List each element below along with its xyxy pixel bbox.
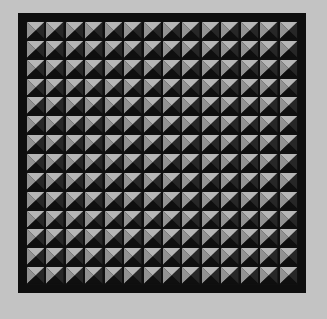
pyramid-tile bbox=[84, 96, 103, 115]
pyramid-tile bbox=[143, 172, 162, 191]
pyramid-tile bbox=[104, 21, 123, 40]
pyramid-tile bbox=[104, 210, 123, 229]
pyramid-stud-icon bbox=[105, 97, 122, 114]
pyramid-tile bbox=[259, 191, 278, 210]
pyramid-stud-icon bbox=[46, 173, 63, 190]
pyramid-tile bbox=[104, 96, 123, 115]
pyramid-stud-icon bbox=[27, 79, 44, 96]
pyramid-tile bbox=[220, 266, 239, 285]
pyramid-stud-icon bbox=[105, 41, 122, 58]
pyramid-tile bbox=[240, 247, 259, 266]
pyramid-tile bbox=[240, 266, 259, 285]
pyramid-stud-icon bbox=[182, 248, 199, 265]
pyramid-stud-icon bbox=[105, 116, 122, 133]
pyramid-stud-icon bbox=[182, 154, 199, 171]
pyramid-stud-icon bbox=[163, 173, 180, 190]
pyramid-tile bbox=[65, 228, 84, 247]
pyramid-tile bbox=[143, 247, 162, 266]
pyramid-stud-icon bbox=[163, 97, 180, 114]
pyramid-stud-icon bbox=[124, 116, 141, 133]
pyramid-tile bbox=[26, 172, 45, 191]
pyramid-stud-icon bbox=[182, 192, 199, 209]
pyramid-tile bbox=[259, 59, 278, 78]
pyramid-tile bbox=[279, 40, 298, 59]
pyramid-stud-icon bbox=[46, 192, 63, 209]
pyramid-stud-icon bbox=[144, 248, 161, 265]
pyramid-stud-icon bbox=[144, 97, 161, 114]
pyramid-tile bbox=[65, 59, 84, 78]
pyramid-stud-icon bbox=[241, 248, 258, 265]
pyramid-stud-icon bbox=[202, 79, 219, 96]
pyramid-tile bbox=[65, 115, 84, 134]
pyramid-tile bbox=[240, 153, 259, 172]
pyramid-tile bbox=[162, 59, 181, 78]
pyramid-tile bbox=[84, 266, 103, 285]
pyramid-stud-icon bbox=[241, 135, 258, 152]
pyramid-stud-icon bbox=[221, 154, 238, 171]
pyramid-tile bbox=[45, 191, 64, 210]
pyramid-tile bbox=[65, 266, 84, 285]
pyramid-stud-icon bbox=[221, 211, 238, 228]
pyramid-stud-icon bbox=[144, 60, 161, 77]
pyramid-tile bbox=[84, 153, 103, 172]
pyramid-tile bbox=[279, 21, 298, 40]
pyramid-stud-icon bbox=[182, 79, 199, 96]
pyramid-tile bbox=[26, 210, 45, 229]
pyramid-stud-icon bbox=[260, 22, 277, 39]
pyramid-tile bbox=[123, 266, 142, 285]
pyramid-stud-icon bbox=[66, 192, 83, 209]
pyramid-stud-icon bbox=[202, 248, 219, 265]
pyramid-tile bbox=[104, 247, 123, 266]
pyramid-stud-icon bbox=[202, 192, 219, 209]
pyramid-stud-icon bbox=[27, 211, 44, 228]
pyramid-stud-icon bbox=[260, 211, 277, 228]
pyramid-tile bbox=[201, 59, 220, 78]
pyramid-stud-icon bbox=[46, 135, 63, 152]
pyramid-stud-icon bbox=[202, 97, 219, 114]
pyramid-stud-icon bbox=[27, 60, 44, 77]
pyramid-tile bbox=[279, 266, 298, 285]
pyramid-tile bbox=[65, 96, 84, 115]
pyramid-tile bbox=[240, 134, 259, 153]
pyramid-tile bbox=[220, 59, 239, 78]
pyramid-stud-icon bbox=[85, 211, 102, 228]
pyramid-stud-icon bbox=[163, 41, 180, 58]
pyramid-tile bbox=[65, 134, 84, 153]
pyramid-tile bbox=[162, 115, 181, 134]
pyramid-tile bbox=[201, 40, 220, 59]
pyramid-stud-icon bbox=[182, 41, 199, 58]
pyramid-stud-icon bbox=[124, 192, 141, 209]
pyramid-stud-icon bbox=[66, 97, 83, 114]
pyramid-tile bbox=[181, 59, 200, 78]
pyramid-tile bbox=[123, 210, 142, 229]
pyramid-stud-icon bbox=[280, 135, 297, 152]
pyramid-tile bbox=[259, 153, 278, 172]
pyramid-stud-icon bbox=[66, 154, 83, 171]
pyramid-tile bbox=[220, 21, 239, 40]
pyramid-tile bbox=[143, 210, 162, 229]
pyramid-stud-icon bbox=[85, 60, 102, 77]
pyramid-stud-icon bbox=[221, 79, 238, 96]
pyramid-tile bbox=[279, 134, 298, 153]
pyramid-tile bbox=[143, 153, 162, 172]
pyramid-tile bbox=[123, 134, 142, 153]
pyramid-tile bbox=[123, 78, 142, 97]
pyramid-stud-icon bbox=[85, 173, 102, 190]
pyramid-stud-icon bbox=[182, 135, 199, 152]
pyramid-tile bbox=[279, 210, 298, 229]
pyramid-stud-icon bbox=[221, 229, 238, 246]
pyramid-tile bbox=[201, 134, 220, 153]
pyramid-stud-icon bbox=[144, 192, 161, 209]
pyramid-tile bbox=[123, 172, 142, 191]
pyramid-tile bbox=[104, 153, 123, 172]
pyramid-tile bbox=[240, 172, 259, 191]
pyramid-tile bbox=[162, 21, 181, 40]
pyramid-tile bbox=[181, 21, 200, 40]
pyramid-tile bbox=[104, 228, 123, 247]
pyramid-tile bbox=[240, 191, 259, 210]
pyramid-stud-icon bbox=[105, 211, 122, 228]
pyramid-tile bbox=[84, 228, 103, 247]
pyramid-stud-icon bbox=[46, 60, 63, 77]
pyramid-stud-icon bbox=[144, 135, 161, 152]
pyramid-tile bbox=[259, 78, 278, 97]
